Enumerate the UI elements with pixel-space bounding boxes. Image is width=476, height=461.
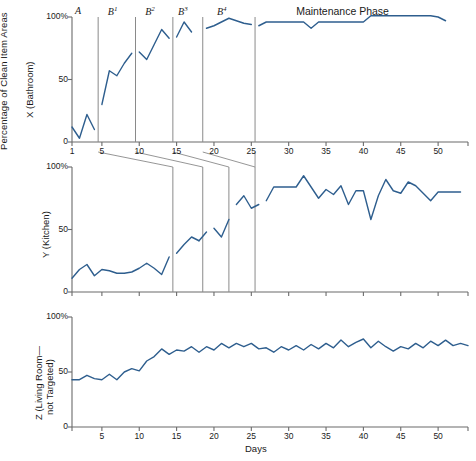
series-y-Maintenance	[266, 176, 460, 220]
y-tick-label: 0	[28, 286, 68, 296]
x-tick-label: 1	[62, 146, 82, 156]
phase-label-a: A	[75, 5, 81, 16]
shared-y-axis-label: Percentage of Clean Item Areas	[0, 0, 14, 150]
x-tick-label: 50	[428, 431, 448, 441]
x-tick-label: 45	[391, 431, 411, 441]
y-tick-label: 0	[28, 136, 68, 146]
chart-canvas	[0, 0, 476, 461]
panel-z-label-line1: Z (Living Room—	[33, 346, 44, 420]
series-y-B3	[214, 220, 229, 238]
panel-x-label: X (Bathroom)	[24, 62, 35, 119]
x-tick-label: 10	[129, 146, 149, 156]
x-tick-label: 30	[279, 146, 299, 156]
x-axis-title: Days	[245, 443, 267, 454]
x-tick-label: 15	[167, 146, 187, 156]
panel-z-label-line2: not Targeted)	[44, 359, 55, 415]
series-y-Baseline	[72, 257, 169, 278]
x-tick-label: 50	[428, 146, 448, 156]
x-tick-label: 40	[353, 431, 373, 441]
y-tick-label: 0	[28, 421, 68, 431]
x-tick-label: 20	[204, 431, 224, 441]
phase-label-b4: B4	[217, 5, 227, 17]
series-x-B4	[206, 18, 251, 28]
x-tick-label: 25	[241, 431, 261, 441]
series-x-Maintenance	[259, 16, 446, 29]
multiple-baseline-chart	[0, 0, 476, 461]
x-tick-label: 40	[353, 146, 373, 156]
y-tick-label: 100%	[28, 11, 68, 21]
y-tick-label: 100%	[28, 161, 68, 171]
x-tick-label: 5	[92, 431, 112, 441]
x-tick-label: 20	[204, 146, 224, 156]
x-tick-label: 35	[316, 146, 336, 156]
panel-y-label: Y (Kitchen)	[40, 211, 51, 258]
phase-label-b1: B1	[108, 5, 118, 17]
x-tick-label: 10	[129, 431, 149, 441]
series-y-B2	[177, 237, 199, 253]
phase-label-maintenance: Maintenance Phase	[296, 5, 389, 17]
series-x-A	[72, 115, 94, 139]
x-tick-label: 25	[241, 146, 261, 156]
x-tick-label: 15	[167, 431, 187, 441]
series-x-B2	[139, 30, 169, 60]
phase-label-b2: B2	[145, 5, 155, 17]
x-tick-label: 45	[391, 146, 411, 156]
x-tick-label: 5	[92, 146, 112, 156]
x-tick-label: 30	[279, 431, 299, 441]
series-x-B3	[177, 22, 192, 37]
phase-label-b3: B3	[178, 5, 188, 17]
x-tick-label: 35	[316, 431, 336, 441]
y-tick-label: 100%	[28, 311, 68, 321]
series-z-Continuous	[72, 339, 468, 380]
series-x-B1	[102, 53, 132, 104]
